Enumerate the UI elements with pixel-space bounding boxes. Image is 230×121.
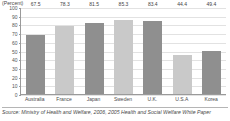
bar-group: 81.5 — [81, 8, 107, 94]
source-note: Source: Ministry of Health and Welfare, … — [2, 109, 211, 116]
bar-group: 49.4 — [198, 8, 224, 94]
bar-group: 83.4 — [140, 8, 166, 94]
bar-value-label: 83.4 — [148, 2, 158, 7]
x-axis-category-label: France — [51, 96, 77, 102]
y-axis-tick-label: 40 — [12, 58, 18, 63]
plot-area: 1009080706050403020100 67.578.381.585.38… — [20, 8, 226, 95]
bar-group: 67.5 — [23, 8, 49, 94]
bar: 49.4 — [202, 51, 221, 94]
bar-group: 78.3 — [52, 8, 78, 94]
y-axis-tick-label: 0 — [15, 93, 18, 98]
bar-value-label: 44.4 — [177, 2, 187, 7]
y-axis-tick-label: 50 — [12, 49, 18, 54]
bar-value-label: 78.3 — [60, 2, 70, 7]
y-axis-tick-label: 100 — [9, 6, 17, 11]
y-axis-tick-label: 30 — [12, 66, 18, 71]
x-axis-labels: AustraliaFranceJapanSwedenU.K.U.S.AKorea — [20, 96, 226, 105]
bar-group: 85.3 — [110, 8, 136, 94]
bar: 78.3 — [55, 26, 74, 94]
bar-value-label: 49.4 — [206, 2, 216, 7]
y-axis-tick-label: 70 — [12, 32, 18, 37]
x-axis-category-label: Australia — [22, 96, 48, 102]
bar: 85.3 — [114, 20, 133, 94]
y-axis-tick-label: 20 — [12, 75, 18, 80]
chart-figure: (Percent) 1009080706050403020100 67.578.… — [0, 0, 230, 121]
x-axis-category-label: Korea — [198, 96, 224, 102]
y-axis-tick-label: 80 — [12, 23, 18, 28]
bar-value-label: 85.3 — [119, 2, 129, 7]
x-axis-category-label: Japan — [81, 96, 107, 102]
y-axis-tick-label: 10 — [12, 84, 18, 89]
bar-value-label: 67.5 — [31, 2, 41, 7]
source-divider — [2, 107, 228, 108]
y-axis-tick-label: 60 — [12, 40, 18, 45]
y-axis-tick-label: 90 — [12, 14, 18, 19]
bar: 83.4 — [143, 21, 162, 94]
bar: 44.4 — [173, 55, 192, 94]
bar-value-label: 81.5 — [89, 2, 99, 7]
bar-group: 44.4 — [169, 8, 195, 94]
x-axis-category-label: U.S.A — [169, 96, 195, 102]
bar: 81.5 — [85, 23, 104, 94]
x-axis-category-label: Sweden — [110, 96, 136, 102]
x-axis-category-label: U.K. — [139, 96, 165, 102]
bar-series: 67.578.381.585.383.444.449.4 — [21, 8, 226, 94]
bar: 67.5 — [26, 35, 45, 94]
